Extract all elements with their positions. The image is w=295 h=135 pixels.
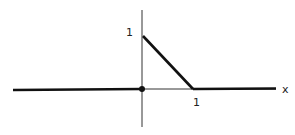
left-segment: [13, 89, 142, 90]
x-tick-label: 1: [193, 96, 200, 109]
origin-dot: [139, 86, 145, 92]
x-axis-label: x: [282, 83, 289, 96]
diagonal-segment: [143, 36, 193, 89]
right-segment: [193, 89, 276, 90]
function-plot: 1 1 x: [0, 0, 295, 135]
y-tick-label: 1: [126, 26, 133, 39]
